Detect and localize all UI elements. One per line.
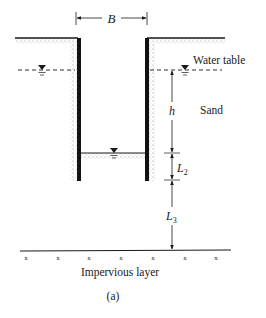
sheet-pile-left bbox=[77, 38, 81, 181]
water-table-label: Water table bbox=[193, 54, 245, 66]
svg-text:x: x bbox=[183, 254, 187, 262]
dimension-b: B bbox=[76, 11, 147, 26]
svg-text:x: x bbox=[24, 254, 28, 262]
svg-text:x: x bbox=[214, 254, 218, 262]
svg-text:x: x bbox=[151, 254, 155, 262]
sheet-pile-right bbox=[145, 38, 149, 181]
cofferdam-seepage-diagram: B h L2 L3 x x x x x x x Water table Sand… bbox=[0, 0, 266, 318]
svg-text:x: x bbox=[87, 254, 91, 262]
figure-caption: (a) bbox=[107, 290, 120, 303]
dimension-h: h bbox=[169, 71, 175, 152]
impervious-layer-line bbox=[20, 250, 231, 251]
dimension-l3-label: L3 bbox=[165, 209, 177, 225]
dimension-l3: L3 bbox=[165, 181, 177, 249]
svg-text:x: x bbox=[56, 254, 60, 262]
impervious-layer-label: Impervious layer bbox=[81, 266, 159, 279]
dimension-b-label: B bbox=[108, 11, 116, 26]
dimension-l2: L2 bbox=[172, 154, 188, 179]
impervious-marks: x x x x x x x bbox=[24, 254, 218, 262]
dimension-l2-label: L2 bbox=[176, 161, 188, 177]
svg-text:x: x bbox=[119, 254, 123, 262]
dimension-h-label: h bbox=[169, 104, 175, 118]
sand-label: Sand bbox=[200, 104, 223, 116]
